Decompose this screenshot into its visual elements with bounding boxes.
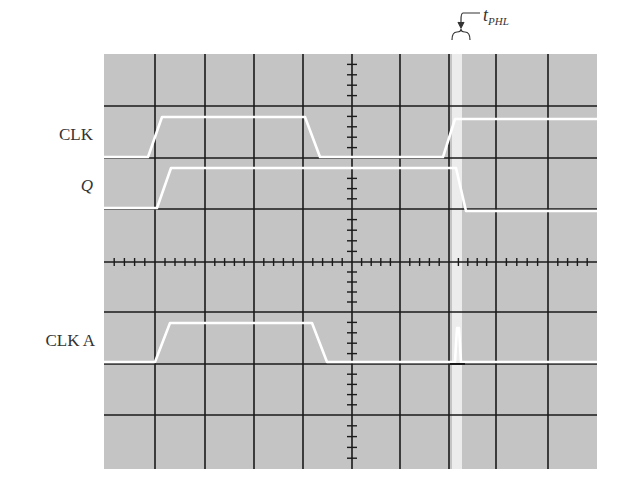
trace-label-q: Q [81, 176, 93, 196]
trace-label-clk-a: CLK A [45, 331, 95, 351]
oscilloscope-display [0, 0, 633, 494]
tphl-label: tPHL [483, 5, 509, 27]
tphl-annotation-marker [452, 13, 480, 40]
trace-label-clk: CLK [59, 125, 93, 145]
tphl-label-subscript: PHL [488, 15, 509, 27]
